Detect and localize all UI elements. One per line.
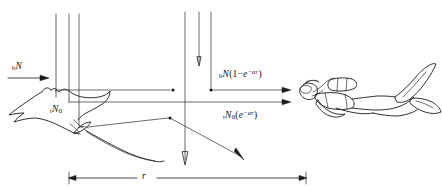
label-attenuated-radiance-exponent: −αr: [243, 109, 254, 116]
diver-hips: [352, 96, 395, 99]
diver-fin-far-rib: [403, 72, 426, 97]
label-incident-beam: bN: [12, 62, 22, 72]
path-radiance-arrowhead: [282, 87, 291, 93]
incident-beam-arrowhead: [40, 75, 49, 81]
radiance-arrows: [56, 87, 291, 105]
diver-leg-near: [352, 98, 413, 110]
diver-torso: [315, 93, 354, 110]
diver-fin-near-rib: [416, 101, 433, 108]
scatter-arrow-shaft-left: [88, 118, 168, 127]
scatter-arrow-arrowhead: [234, 148, 244, 160]
diver-mask: [300, 86, 311, 94]
diver-leg-far: [373, 110, 417, 116]
attenuated-radiance-arrowhead: [282, 99, 291, 105]
scatter-arrow: [88, 116, 244, 160]
incident-beam-arrow: [8, 75, 49, 81]
manta-ray-tail: [85, 130, 164, 162]
diver-arm-far: [336, 108, 373, 114]
label-incident-beam-main: N: [16, 61, 23, 71]
target-radiance-endpoint: [171, 88, 174, 91]
diver-harness-2: [345, 94, 347, 109]
label-path-radiance: bN(1−e−αr): [219, 69, 262, 80]
scatter-arrow-shaft-right: [170, 118, 240, 156]
distance-dimension-line: [68, 172, 307, 184]
manta-ray-tail-edge: [87, 132, 155, 161]
manta-ray-body-line: [74, 120, 83, 128]
label-distance-r: r: [142, 172, 146, 182]
label-attenuated-radiance: tN0(e−αr): [223, 110, 257, 121]
label-target-radiance: tN0: [50, 105, 62, 115]
manta-ray: [9, 88, 164, 162]
label-path-radiance-close-paren: ): [258, 69, 261, 79]
downwelling-rays-middle: [182, 12, 211, 165]
label-path-radiance-exponent: −αr: [247, 68, 258, 75]
figure-root: bN bN(1−e−αr) tN0 tN0(e−αr) r: [0, 0, 442, 191]
label-target-radiance-subzero: 0: [59, 107, 63, 114]
diagram-canvas: [0, 0, 442, 191]
diver-harness-1: [325, 93, 328, 108]
label-attenuated-radiance-close-paren: ): [254, 110, 257, 120]
diver-tank-band-1: [337, 78, 338, 91]
diver-fin-far: [395, 64, 436, 103]
scuba-diver: [300, 64, 441, 117]
diver-tank-band-2: [346, 78, 347, 91]
diver-tank: [328, 78, 357, 91]
path-radiance-origin: [209, 88, 212, 91]
